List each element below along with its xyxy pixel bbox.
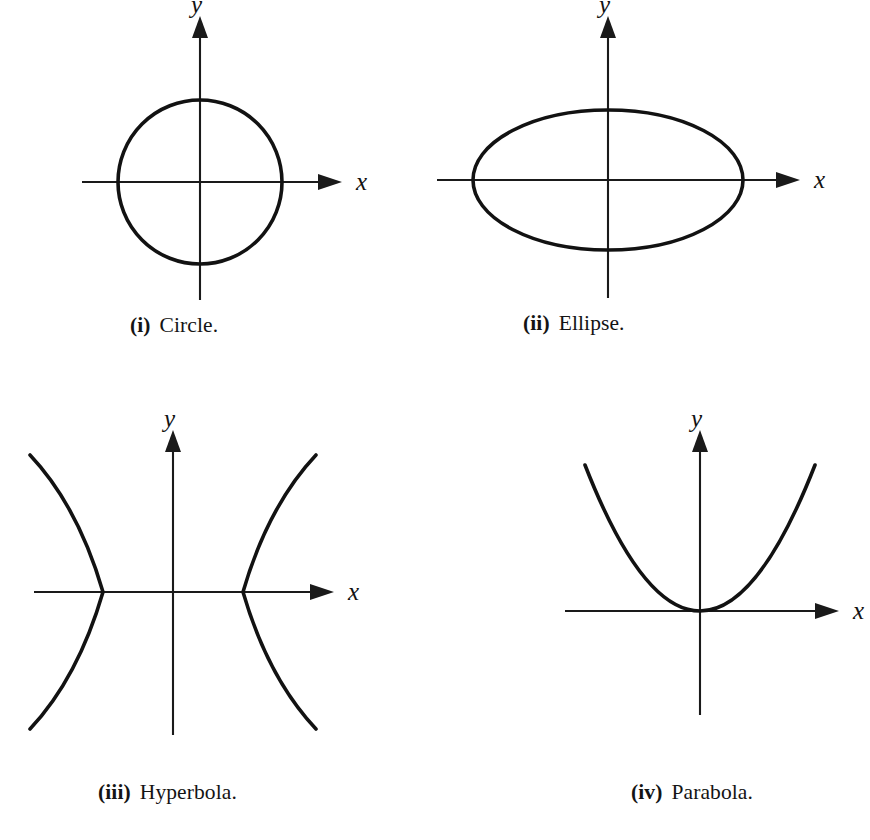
y-axis-arrow-icon bbox=[600, 16, 616, 38]
x-axis-label: x bbox=[347, 578, 359, 605]
caption-numeral: (iii) bbox=[98, 780, 131, 804]
caption-name: Hyperbola. bbox=[140, 780, 237, 804]
y-axis-arrow-icon bbox=[165, 430, 181, 452]
x-axis-arrow-icon bbox=[318, 174, 342, 190]
y-axis-arrow-icon bbox=[692, 430, 708, 452]
y-axis-label: y bbox=[596, 0, 611, 18]
y-axis-label: y bbox=[688, 405, 703, 432]
x-axis-label: x bbox=[355, 168, 367, 195]
caption-name: Ellipse. bbox=[559, 311, 625, 335]
caption-name: Parabola. bbox=[671, 780, 753, 804]
panel-ellipse: x y (ii)Ellipse. bbox=[435, 0, 870, 360]
caption-circle: (i)Circle. bbox=[130, 313, 218, 338]
panel-hyperbola: x y (iii)Hyperbola. bbox=[0, 415, 435, 840]
caption-numeral: (iv) bbox=[631, 780, 662, 804]
y-axis-arrow-icon bbox=[192, 16, 208, 38]
ellipse-diagram: x y bbox=[435, 0, 870, 330]
figure-sheet: x y (i)Circle. x y (ii)Ellipse. bbox=[0, 0, 870, 840]
caption-numeral: (ii) bbox=[523, 311, 550, 335]
x-axis-arrow-icon bbox=[776, 172, 800, 188]
hyperbola-diagram: x y bbox=[0, 415, 435, 755]
panel-parabola: x y (iv)Parabola. bbox=[435, 415, 870, 840]
parabola-diagram: x y bbox=[435, 415, 870, 755]
caption-hyperbola: (iii)Hyperbola. bbox=[98, 780, 237, 805]
caption-numeral: (i) bbox=[130, 313, 151, 337]
caption-parabola: (iv)Parabola. bbox=[631, 780, 753, 805]
x-axis-label: x bbox=[852, 597, 864, 624]
y-axis-label: y bbox=[188, 0, 203, 18]
x-axis-arrow-icon bbox=[815, 603, 839, 619]
x-axis-label: x bbox=[813, 166, 825, 193]
x-axis-arrow-icon bbox=[310, 584, 334, 600]
caption-name: Circle. bbox=[160, 313, 219, 337]
y-axis-label: y bbox=[161, 405, 176, 432]
circle-diagram: x y bbox=[0, 0, 435, 330]
panel-circle: x y (i)Circle. bbox=[0, 0, 435, 360]
caption-ellipse: (ii)Ellipse. bbox=[523, 311, 625, 336]
